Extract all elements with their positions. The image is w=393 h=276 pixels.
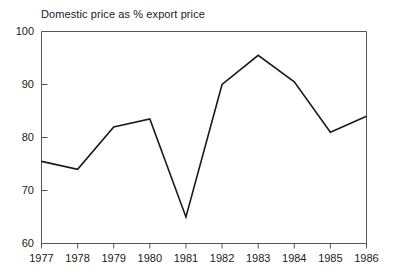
y-tick-label: 60 <box>8 238 34 249</box>
line-chart: Domestic price as % export price 6070809… <box>0 0 393 276</box>
x-tick-label: 1984 <box>277 253 311 264</box>
data-series-line <box>42 55 367 217</box>
x-tick-label: 1979 <box>97 253 131 264</box>
x-tick-label: 1983 <box>241 253 275 264</box>
x-tick-label: 1977 <box>25 253 59 264</box>
chart-axes <box>42 32 367 244</box>
x-tick-label: 1985 <box>313 253 347 264</box>
y-tick-label: 100 <box>8 26 34 37</box>
plot-area <box>0 0 393 276</box>
y-tick-label: 90 <box>8 79 34 90</box>
axis-ticks <box>42 85 367 249</box>
x-tick-label: 1980 <box>133 253 167 264</box>
x-tick-label: 1981 <box>169 253 203 264</box>
x-tick-label: 1978 <box>61 253 95 264</box>
x-tick-label: 1986 <box>350 253 384 264</box>
y-tick-label: 80 <box>8 132 34 143</box>
y-tick-label: 70 <box>8 185 34 196</box>
x-tick-label: 1982 <box>205 253 239 264</box>
